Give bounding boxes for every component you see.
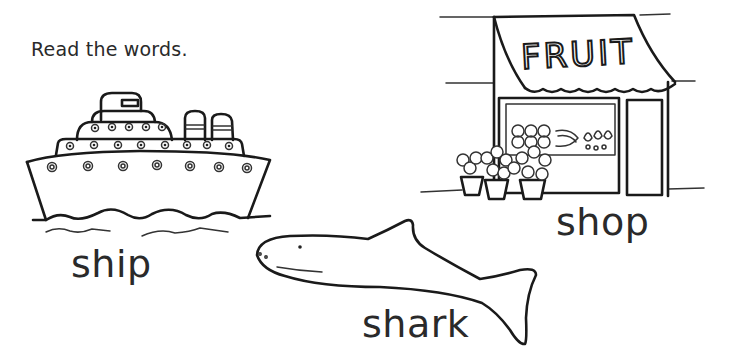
word-ship: ship bbox=[71, 242, 152, 286]
fruit-sign-text: FRUIT bbox=[520, 31, 636, 77]
word-shop: shop bbox=[556, 200, 649, 244]
ship-illustration bbox=[27, 93, 270, 236]
word-shark: shark bbox=[362, 302, 469, 346]
fruit-shop-illustration: FRUIT bbox=[421, 14, 704, 199]
